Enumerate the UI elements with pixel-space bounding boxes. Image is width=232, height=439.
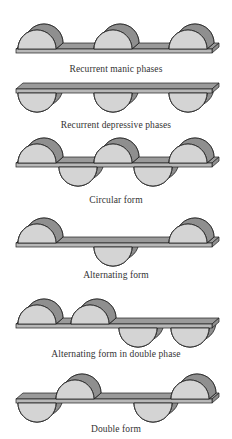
baseline-front	[16, 399, 212, 403]
depressive-phase-face	[18, 403, 56, 422]
depressive-phase-face	[134, 403, 172, 422]
panel-graphic	[0, 0, 232, 439]
caption: Double form	[0, 424, 232, 434]
